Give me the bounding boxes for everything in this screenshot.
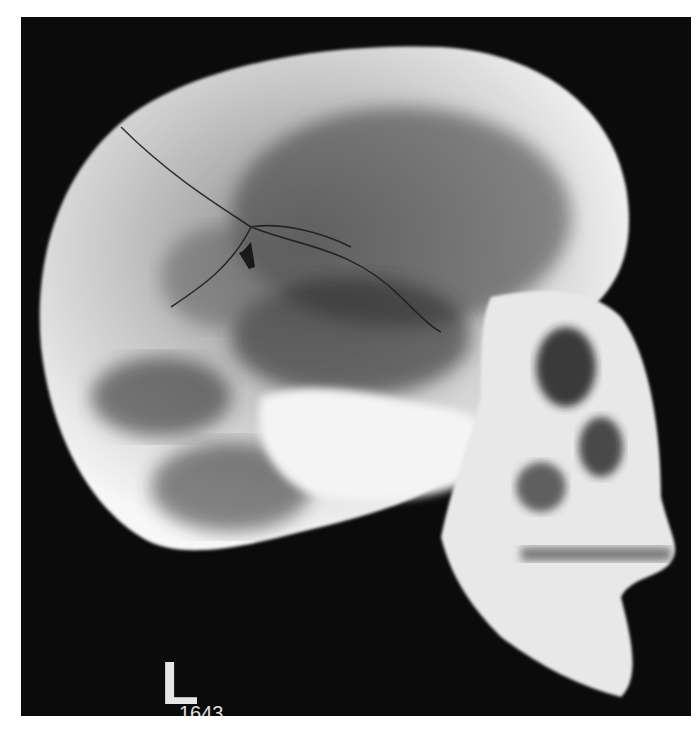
- film-number: 1643: [179, 703, 224, 716]
- skull-radiograph: [21, 17, 691, 716]
- xray-image: L 1643: [21, 17, 691, 716]
